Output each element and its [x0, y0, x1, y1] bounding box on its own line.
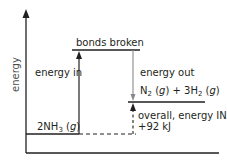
bonds-broken-label: bonds broken — [76, 37, 144, 48]
energy-level-diagram: energy 2NH3 (g) bonds broken energy in e… — [0, 0, 227, 162]
y-axis-arrow-icon — [23, 9, 30, 18]
reactants-label: 2NH3 (g) — [37, 121, 80, 134]
products-label: N2 (g) + 3H2 (g) — [140, 85, 220, 98]
overall-energy-arrow — [130, 103, 136, 134]
overall-energy-label: overall, energy IN — [138, 110, 227, 121]
y-axis — [23, 9, 30, 153]
overall-energy-value: +92 kJ — [138, 121, 171, 132]
arrow-up-icon — [76, 51, 82, 59]
arrow-up-icon — [130, 103, 136, 111]
energy-out-arrow — [131, 50, 136, 101]
energy-in-label: energy in — [35, 67, 82, 78]
arrow-down-icon — [131, 94, 136, 101]
y-axis-label: energy — [10, 57, 21, 92]
energy-out-label: energy out — [140, 67, 194, 78]
